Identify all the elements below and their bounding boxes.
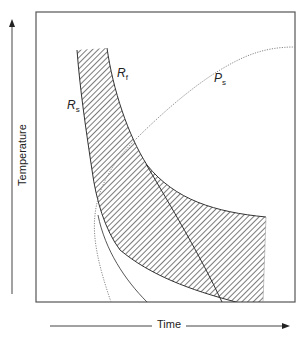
hatched-band — [77, 48, 266, 302]
x-axis-label: Time — [152, 318, 186, 330]
diagram-canvas — [0, 0, 305, 339]
y-axis-arrow — [9, 19, 15, 294]
rf-label: Rf — [117, 66, 128, 82]
y-axis-label: Temperature — [16, 119, 28, 191]
ps-label: Ps — [214, 71, 226, 87]
rs-label: Rs — [67, 98, 80, 114]
